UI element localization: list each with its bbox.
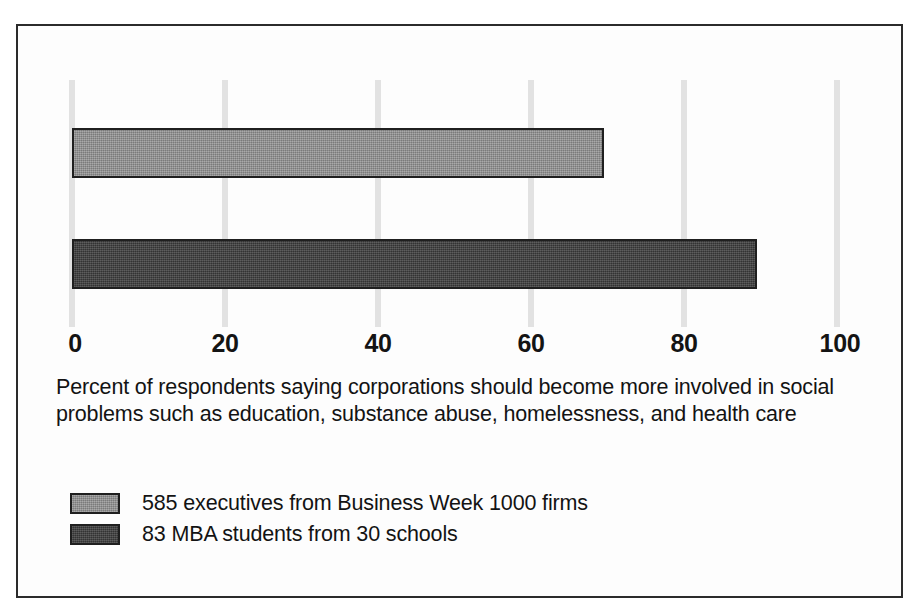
xtick-label-40: 40 xyxy=(364,331,391,356)
gridline-60 xyxy=(528,80,534,327)
bar-mba-students xyxy=(72,239,757,289)
legend-item-mba-students: 83 MBA students from 30 schools xyxy=(70,519,588,550)
gridline-40 xyxy=(375,80,381,327)
legend-item-executives: 585 executives from Business Week 1000 f… xyxy=(70,488,588,519)
gridline-20 xyxy=(222,80,228,327)
dark-gray-swatch-icon xyxy=(70,524,120,545)
light-gray-swatch-icon xyxy=(70,493,120,514)
legend-label-executives: 585 executives from Business Week 1000 f… xyxy=(142,493,588,515)
gridline-0 xyxy=(69,80,75,327)
bar-executives xyxy=(72,128,604,178)
xtick-label-100: 100 xyxy=(820,331,861,356)
chart-figure: 0 20 40 60 80 100 Percent of respondents… xyxy=(16,24,903,598)
xtick-label-60: 60 xyxy=(517,331,544,356)
gridline-100 xyxy=(834,80,840,327)
chart-legend: 585 executives from Business Week 1000 f… xyxy=(70,488,588,550)
gridline-80 xyxy=(681,80,687,327)
chart-caption: Percent of respondents saying corporatio… xyxy=(56,374,846,429)
xtick-label-80: 80 xyxy=(670,331,697,356)
xtick-label-0: 0 xyxy=(68,331,82,356)
xtick-label-20: 20 xyxy=(211,331,238,356)
legend-label-mba-students: 83 MBA students from 30 schools xyxy=(142,524,458,546)
